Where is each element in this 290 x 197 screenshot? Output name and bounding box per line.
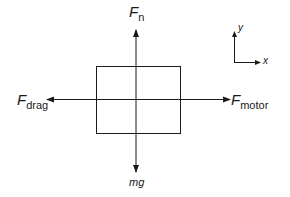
normal-force-subscript: n xyxy=(138,11,144,23)
motor-force-label: Fmotor xyxy=(231,92,268,107)
drag-force-label: Fdrag xyxy=(17,92,48,107)
weight-force-label: mg xyxy=(129,177,144,188)
normal-force-label: Fn xyxy=(129,4,144,19)
x-axis-label: x xyxy=(263,56,268,66)
drag-force-subscript: drag xyxy=(26,99,48,111)
drag-force-symbol: F xyxy=(17,91,26,108)
motor-force-symbol: F xyxy=(231,91,240,108)
normal-force-symbol: F xyxy=(129,3,138,20)
y-axis-label: y xyxy=(238,23,243,33)
motor-force-subscript: motor xyxy=(240,99,268,111)
